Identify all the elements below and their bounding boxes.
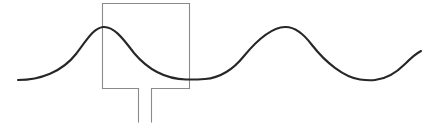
schematic-figure: [0, 0, 434, 125]
figure-canvas: [0, 0, 434, 125]
figure-background: [0, 0, 434, 125]
